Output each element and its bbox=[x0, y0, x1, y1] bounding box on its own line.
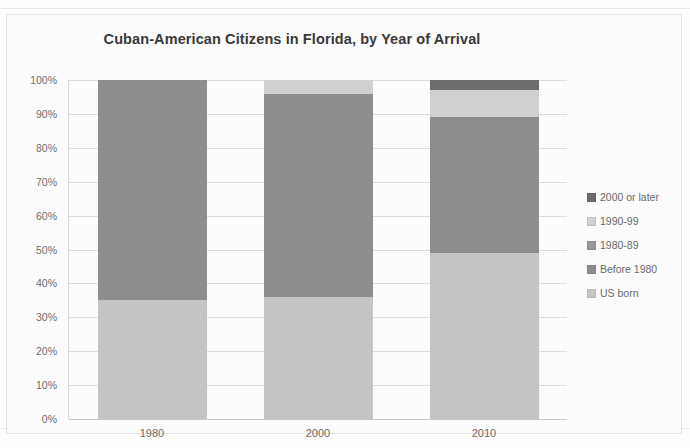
legend-item[interactable]: 2000 or later bbox=[587, 191, 690, 203]
y-axis-tick-label: 90% bbox=[36, 108, 57, 120]
x-axis-tick-label: 2000 bbox=[248, 427, 388, 439]
legend-item-label: US born bbox=[600, 287, 639, 299]
y-axis-tick-label: 20% bbox=[36, 345, 57, 357]
bar-stack bbox=[430, 80, 539, 419]
y-axis-tick-label: 40% bbox=[36, 277, 57, 289]
chart-frame: Cuban-American Citizens in Florida, by Y… bbox=[6, 14, 682, 434]
legend-item-label: 1980-89 bbox=[600, 239, 639, 251]
scan-artifact-top bbox=[0, 8, 690, 9]
legend-swatch-icon bbox=[587, 193, 596, 202]
bar-segment bbox=[430, 80, 539, 90]
y-axis-tick-label: 60% bbox=[36, 210, 57, 222]
y-axis-tick-label: 80% bbox=[36, 142, 57, 154]
x-axis-tick-label: 1980 bbox=[82, 427, 222, 439]
legend-item-label: Before 1980 bbox=[600, 263, 657, 275]
gridline bbox=[69, 419, 567, 420]
legend-swatch-icon bbox=[587, 265, 596, 274]
bar-segment bbox=[430, 90, 539, 117]
bar-segment bbox=[264, 80, 373, 94]
legend-item-label: 2000 or later bbox=[600, 191, 659, 203]
bar-stack bbox=[98, 80, 207, 419]
y-axis-tick-label: 100% bbox=[30, 74, 57, 86]
bar-stack bbox=[264, 80, 373, 419]
chart-title: Cuban-American Citizens in Florida, by Y… bbox=[7, 31, 577, 47]
legend-item[interactable]: US born bbox=[587, 287, 690, 299]
legend-swatch-icon bbox=[587, 217, 596, 226]
bar-segment bbox=[430, 117, 539, 253]
legend-item-label: 1990-99 bbox=[600, 215, 639, 227]
y-axis-tick-labels: 100%90%80%70%60%50%40%30%20%10%0% bbox=[7, 80, 63, 419]
y-axis-tick-label: 70% bbox=[36, 176, 57, 188]
y-axis-tick-label: 0% bbox=[42, 413, 57, 425]
legend-item[interactable]: 1990-99 bbox=[587, 215, 690, 227]
chart-legend: 2000 or later1990-991980-89Before 1980US… bbox=[587, 191, 690, 311]
x-axis-tick-label: 2010 bbox=[414, 427, 554, 439]
legend-item[interactable]: Before 1980 bbox=[587, 263, 690, 275]
legend-item[interactable]: 1980-89 bbox=[587, 239, 690, 251]
bar-segment bbox=[264, 94, 373, 297]
bar-segment bbox=[98, 80, 207, 300]
bar-segment bbox=[430, 253, 539, 419]
bar-segment bbox=[264, 297, 373, 419]
plot-area bbox=[69, 80, 567, 419]
y-axis-tick-label: 50% bbox=[36, 244, 57, 256]
legend-swatch-icon bbox=[587, 241, 596, 250]
bar-segment bbox=[98, 300, 207, 419]
legend-swatch-icon bbox=[587, 289, 596, 298]
y-axis-tick-label: 30% bbox=[36, 311, 57, 323]
y-axis-tick-label: 10% bbox=[36, 379, 57, 391]
